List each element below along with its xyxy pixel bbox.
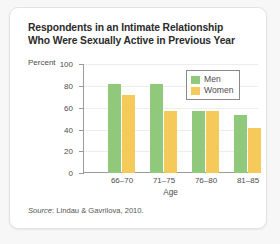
legend-label-women: Women [204,85,233,96]
legend-swatch-women [191,87,200,95]
bar-women-3 [248,128,261,173]
y-tick-label-100: 100 [60,60,73,69]
bar-men-3 [234,115,247,173]
legend-item-women: Women [191,85,233,96]
bar-women-1 [164,111,177,173]
legend-swatch-men [191,76,200,84]
chart-title-line-2: Who Were Sexually Active in Previous Yea… [28,35,256,48]
legend-label-men: Men [204,74,221,85]
y-tick-100: 100 [79,64,83,65]
y-tick-60: 60 [79,108,83,109]
bar-men-2 [192,111,205,173]
y-tick-80: 80 [79,86,83,87]
y-tick-label-0: 0 [69,169,73,178]
chart-card: Respondents in an Intimate Relationship … [9,7,267,229]
y-tick-40: 40 [79,130,83,131]
source-text: : Lindau & Gavrilova, 2010. [52,206,144,215]
bar-women-0 [122,95,135,173]
chart-title: Respondents in an Intimate Relationship … [28,22,256,47]
y-tick-20: 20 [79,151,83,152]
y-tick-label-20: 20 [64,147,73,156]
bar-men-0 [108,84,121,173]
y-tick-label-40: 40 [64,126,73,135]
chart-legend: Men Women [186,70,240,100]
x-axis-title: Age [83,188,258,197]
chart-title-line-1: Respondents in an Intimate Relationship [28,22,256,35]
y-axis-title: Percent [28,58,56,67]
source-prefix: Source [28,206,52,215]
bar-women-2 [206,111,219,173]
bar-men-1 [150,84,163,173]
source-note: Source: Lindau & Gavrilova, 2010. [28,206,144,215]
y-tick-label-60: 60 [64,104,73,113]
y-tick-label-80: 80 [64,82,73,91]
legend-item-men: Men [191,74,233,85]
chart-page: Respondents in an Intimate Relationship … [0,0,280,244]
y-tick-0: 0 [79,173,83,174]
x-tick-label-3: 81–85 [220,176,267,185]
